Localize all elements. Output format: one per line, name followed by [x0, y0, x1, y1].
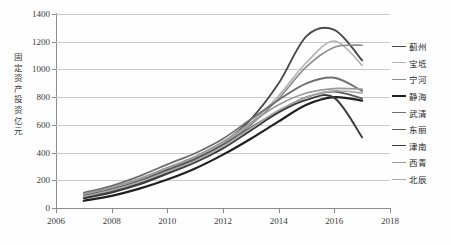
legend-line-icon [392, 179, 406, 180]
y-tick-label: 200 [37, 175, 51, 185]
x-tick-label: 2010 [158, 216, 176, 226]
chart-legend: 蓟州宝坻宁河静海武清东丽津南西青北辰 [392, 38, 451, 187]
legend-line-icon [392, 95, 406, 97]
x-tick-label: 2008 [103, 216, 121, 226]
x-tick-mark [334, 209, 335, 213]
legend-line-icon [392, 112, 406, 113]
series-lines [56, 14, 390, 208]
x-tick-mark [112, 209, 113, 213]
x-tick-mark [390, 209, 391, 213]
x-tick-mark [223, 209, 224, 213]
x-tick-label: 2012 [214, 216, 232, 226]
x-tick-label: 2006 [47, 216, 65, 226]
legend-item-label: 武清 [409, 107, 427, 119]
x-tick-mark [56, 209, 57, 213]
y-tick-label: 1200 [32, 37, 50, 47]
legend-item-label: 宁河 [409, 73, 427, 85]
legend-item-label: 北辰 [409, 173, 427, 185]
legend-item-label: 西青 [409, 156, 427, 168]
legend-item[interactable]: 北辰 [392, 171, 451, 188]
x-tick-label: 2018 [381, 216, 399, 226]
y-tick-label: 600 [37, 120, 51, 130]
legend-item-label: 蓟州 [409, 40, 427, 52]
series-line [84, 45, 362, 195]
legend-line-icon [392, 46, 406, 47]
chart-container: 固定资产投资 亿元 0200400600800100012001400 2006… [0, 0, 451, 245]
legend-item[interactable]: 津南 [392, 138, 451, 155]
y-axis-title: 固定资产投资 亿元 [10, 52, 26, 137]
x-tick-mark [167, 209, 168, 213]
legend-line-icon [392, 62, 406, 63]
legend-item[interactable]: 西青 [392, 154, 451, 171]
legend-item[interactable]: 宝坻 [392, 55, 451, 72]
plot-area: 0200400600800100012001400 [56, 14, 390, 208]
legend-item-label: 东丽 [409, 123, 427, 135]
x-tick-label: 2014 [270, 216, 288, 226]
y-tick-label: 1000 [32, 64, 50, 74]
y-tick-label: 400 [37, 148, 51, 158]
y-tick-label: 800 [37, 92, 51, 102]
legend-line-icon [392, 129, 406, 130]
series-line [84, 28, 362, 197]
series-line [84, 41, 362, 193]
legend-line-icon [392, 145, 406, 146]
x-axis-ticks: 2006200820102012201420162018 [56, 209, 390, 229]
legend-item-label: 津南 [409, 140, 427, 152]
legend-line-icon [392, 79, 406, 80]
series-line [84, 88, 362, 194]
y-tick-label: 1400 [32, 9, 50, 19]
legend-item[interactable]: 静海 [392, 88, 451, 105]
legend-item[interactable]: 东丽 [392, 121, 451, 138]
legend-item[interactable]: 武清 [392, 104, 451, 121]
y-tick-label: 0 [46, 203, 51, 213]
legend-item[interactable]: 蓟州 [392, 38, 451, 55]
x-tick-label: 2016 [325, 216, 343, 226]
legend-item[interactable]: 宁河 [392, 71, 451, 88]
x-tick-mark [279, 209, 280, 213]
legend-item-label: 宝坻 [409, 57, 427, 69]
legend-line-icon [392, 162, 406, 163]
legend-item-label: 静海 [409, 90, 427, 102]
